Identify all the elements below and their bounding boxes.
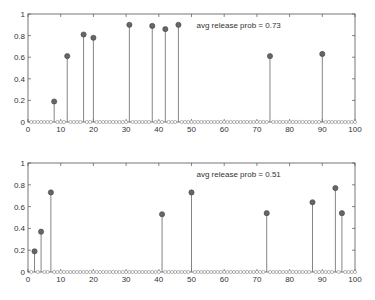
zero-marker <box>79 270 82 273</box>
stem-marker <box>150 23 155 28</box>
zero-marker <box>226 120 229 123</box>
zero-marker <box>324 120 327 123</box>
zero-marker <box>95 120 98 123</box>
zero-marker <box>167 270 170 273</box>
figure: 010203040506070809010000.20.40.60.81avg … <box>0 0 375 300</box>
stem-marker <box>38 229 43 234</box>
zero-marker <box>321 270 324 273</box>
zero-marker <box>121 270 124 273</box>
zero-marker <box>157 120 160 123</box>
zero-marker <box>56 270 59 273</box>
stem-marker <box>159 212 164 217</box>
zero-marker <box>344 270 347 273</box>
axes-box <box>28 14 355 122</box>
stem-marker <box>333 185 338 190</box>
x-tick-label: 100 <box>348 275 362 284</box>
zero-marker <box>347 270 350 273</box>
zero-marker <box>298 270 301 273</box>
zero-marker <box>255 120 258 123</box>
zero-marker <box>232 120 235 123</box>
zero-marker <box>249 270 252 273</box>
zero-marker <box>285 270 288 273</box>
zero-marker <box>46 120 49 123</box>
zero-marker <box>344 120 347 123</box>
zero-marker <box>56 120 59 123</box>
zero-marker <box>203 120 206 123</box>
y-tick-label: 0.8 <box>14 32 26 41</box>
stem-marker <box>32 249 37 254</box>
zero-marker <box>196 120 199 123</box>
zero-marker <box>259 270 262 273</box>
zero-marker <box>210 120 213 123</box>
zero-marker <box>180 270 183 273</box>
zero-marker <box>128 270 131 273</box>
zero-marker <box>75 120 78 123</box>
zero-marker <box>89 270 92 273</box>
zero-marker <box>151 270 154 273</box>
zero-marker <box>278 120 281 123</box>
zero-marker <box>272 270 275 273</box>
zero-marker <box>314 270 317 273</box>
zero-marker <box>288 270 291 273</box>
zero-marker <box>183 120 186 123</box>
zero-marker <box>226 270 229 273</box>
zero-marker <box>350 270 353 273</box>
zero-marker <box>131 120 134 123</box>
stem-marker <box>339 211 344 216</box>
zero-marker <box>324 270 327 273</box>
y-tick-label: 0.6 <box>14 203 26 212</box>
y-tick-label: 1 <box>21 159 26 168</box>
zero-marker <box>69 120 72 123</box>
zero-marker <box>249 120 252 123</box>
zero-marker <box>59 120 62 123</box>
zero-marker <box>98 120 101 123</box>
zero-marker <box>245 120 248 123</box>
x-tick-label: 20 <box>89 125 98 134</box>
zero-marker <box>232 270 235 273</box>
y-tick-label: 0.2 <box>14 96 26 105</box>
zero-marker <box>177 270 180 273</box>
zero-marker <box>337 270 340 273</box>
y-tick-label: 0.6 <box>14 53 26 62</box>
zero-marker <box>89 120 92 123</box>
x-tick-label: 0 <box>26 125 31 134</box>
zero-marker <box>327 120 330 123</box>
stem-marker <box>310 200 315 205</box>
zero-marker <box>82 270 85 273</box>
zero-marker <box>337 120 340 123</box>
x-tick-label: 20 <box>89 275 98 284</box>
zero-marker <box>275 270 278 273</box>
stem-marker <box>91 35 96 40</box>
zero-marker <box>245 270 248 273</box>
x-tick-label: 100 <box>348 125 362 134</box>
zero-marker <box>268 270 271 273</box>
zero-marker <box>164 270 167 273</box>
zero-marker <box>239 120 242 123</box>
zero-marker <box>187 120 190 123</box>
zero-marker <box>193 120 196 123</box>
stem-marker <box>320 51 325 56</box>
zero-marker <box>75 270 78 273</box>
zero-marker <box>278 270 281 273</box>
zero-marker <box>229 120 232 123</box>
zero-marker <box>216 270 219 273</box>
zero-marker <box>308 120 311 123</box>
zero-marker <box>216 120 219 123</box>
zero-marker <box>108 270 111 273</box>
zero-marker <box>203 270 206 273</box>
stem-marker <box>189 190 194 195</box>
zero-marker <box>285 120 288 123</box>
zero-marker <box>187 270 190 273</box>
zero-marker <box>353 120 356 123</box>
zero-marker <box>125 270 128 273</box>
zero-marker <box>66 270 69 273</box>
x-tick-label: 70 <box>252 125 261 134</box>
zero-marker <box>157 270 160 273</box>
zero-marker <box>102 120 105 123</box>
stem-marker <box>81 32 86 37</box>
zero-marker <box>242 120 245 123</box>
zero-marker <box>223 270 226 273</box>
zero-marker <box>138 270 141 273</box>
avg-release-annotation: avg release prob = 0.73 <box>197 21 282 30</box>
zero-marker <box>213 270 216 273</box>
